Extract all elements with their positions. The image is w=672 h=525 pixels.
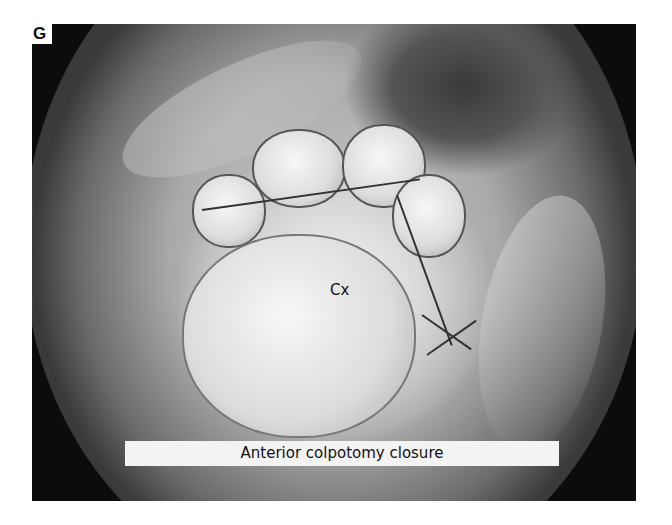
endoscopic-image-frame xyxy=(32,24,636,501)
cervix xyxy=(182,234,416,438)
panel-label: G xyxy=(32,24,52,44)
image-caption: Anterior colpotomy closure xyxy=(125,441,559,466)
cervix-annotation: Cx xyxy=(330,281,349,299)
